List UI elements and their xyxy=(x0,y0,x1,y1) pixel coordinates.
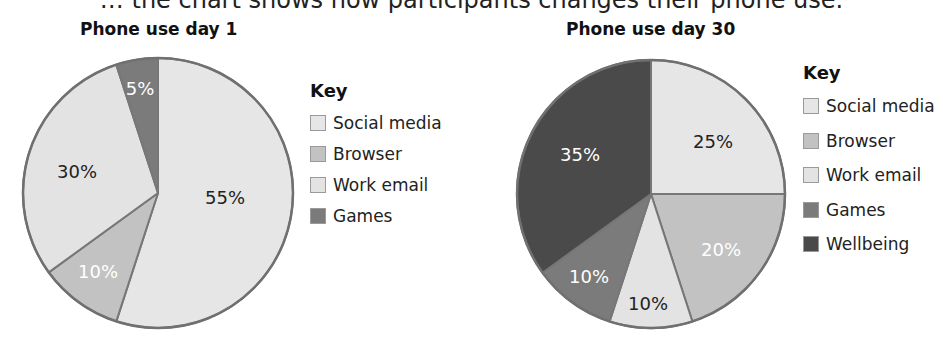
legend-swatch xyxy=(803,236,819,252)
legend-swatch xyxy=(803,133,819,149)
legend-swatch xyxy=(803,167,819,183)
legend-day-1: Key Social mediaBrowserWork emailGames xyxy=(310,80,442,231)
legend-day-30: Key Social mediaBrowserWork emailGamesWe… xyxy=(803,62,935,262)
slice-label: 25% xyxy=(693,131,733,152)
legend-swatch xyxy=(803,98,819,114)
legend-item-browser: Browser xyxy=(803,124,935,159)
pie-slice-social-media xyxy=(651,60,785,194)
legend-title: Key xyxy=(310,80,442,101)
legend-item-games: Games xyxy=(310,200,442,231)
slice-label: 20% xyxy=(701,239,741,260)
pie-day-1: 55%10%30%5% xyxy=(23,58,293,328)
legend-title: Key xyxy=(803,62,935,83)
slice-label: 10% xyxy=(569,266,609,287)
legend-item-browser: Browser xyxy=(310,138,442,169)
slice-label: 10% xyxy=(628,293,668,314)
legend-item-social-media: Social media xyxy=(803,89,935,124)
legend-label: Games xyxy=(826,200,885,220)
legend-swatch xyxy=(310,177,326,193)
legend-label: Wellbeing xyxy=(826,234,909,254)
slice-label: 5% xyxy=(126,78,155,99)
legend-swatch xyxy=(803,202,819,218)
legend-label: Browser xyxy=(826,131,895,151)
legend-item-social-media: Social media xyxy=(310,107,442,138)
slice-label: 30% xyxy=(57,161,97,182)
legend-label: Browser xyxy=(333,144,402,164)
pie-charts: 55%10%30%5%25%20%10%10%35% xyxy=(0,0,943,346)
legend-item-games: Games xyxy=(803,193,935,228)
legend-item-wellbeing: Wellbeing xyxy=(803,227,935,262)
legend-label: Work email xyxy=(826,165,921,185)
legend-item-work-email: Work email xyxy=(803,158,935,193)
legend-label: Social media xyxy=(333,113,442,133)
slice-label: 10% xyxy=(78,261,118,282)
legend-swatch xyxy=(310,208,326,224)
legend-swatch xyxy=(310,146,326,162)
legend-label: Games xyxy=(333,206,392,226)
legend-item-work-email: Work email xyxy=(310,169,442,200)
legend-swatch xyxy=(310,115,326,131)
legend-label: Social media xyxy=(826,96,935,116)
slice-label: 35% xyxy=(560,144,600,165)
slice-label: 55% xyxy=(205,187,245,208)
legend-label: Work email xyxy=(333,175,428,195)
pie-day-30: 25%20%10%10%35% xyxy=(517,60,785,328)
